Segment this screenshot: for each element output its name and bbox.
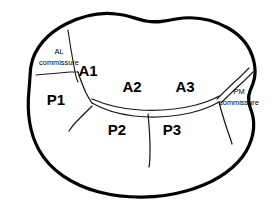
segment-label-a3: A3 xyxy=(175,78,194,95)
segment-label-p1: P1 xyxy=(47,91,65,108)
al-commissure-label-line2: commissure xyxy=(39,58,79,67)
segment-label-p2: P2 xyxy=(108,121,126,138)
pm-commissure-label-line2: commissure xyxy=(219,98,259,107)
al-commissure-label-line1: AL xyxy=(54,47,63,56)
segment-label-p3: P3 xyxy=(163,121,181,138)
segment-label-a1: A1 xyxy=(78,62,97,79)
mitral-valve-diagram: A1 A2 A3 P1 P2 P3 AL commissure PM commi… xyxy=(0,0,278,204)
valve-schematic-svg: A1 A2 A3 P1 P2 P3 AL commissure PM commi… xyxy=(0,0,278,204)
segment-label-a2: A2 xyxy=(122,78,141,95)
pm-commissure-label-line1: PM xyxy=(233,87,244,96)
